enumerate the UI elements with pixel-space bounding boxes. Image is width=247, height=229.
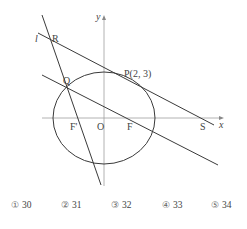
choice-marker: ①	[11, 200, 19, 210]
choice-marker: ②	[61, 200, 69, 210]
line-rf-prime	[42, 15, 101, 185]
x-axis-label: x	[218, 119, 224, 130]
choice-value: 34	[222, 200, 232, 210]
point-f-prime-label: F'	[70, 121, 78, 132]
x-axis	[42, 116, 224, 120]
line-l-label: l	[35, 33, 38, 44]
choice-3[interactable]: ③32	[111, 200, 132, 210]
choice-value: 32	[122, 200, 132, 210]
geometry-diagram: l R Q P(2, 3) F' O F S x y	[0, 0, 247, 190]
point-f-label: F	[127, 121, 133, 132]
point-r-label: R	[52, 33, 59, 44]
choice-1[interactable]: ①30	[11, 200, 32, 210]
y-axis-label: y	[95, 11, 101, 22]
choice-marker: ④	[162, 200, 170, 210]
point-q-label: Q	[63, 75, 71, 86]
choice-value: 33	[173, 200, 183, 210]
point-p-label: P(2, 3)	[124, 68, 151, 80]
choice-marker: ⑤	[211, 200, 219, 210]
choice-marker: ③	[111, 200, 119, 210]
y-axis	[102, 15, 106, 186]
choice-value: 31	[72, 200, 82, 210]
point-s-label: S	[200, 121, 206, 132]
origin-label: O	[97, 121, 104, 132]
answer-choices: ①30 ②31 ③32 ④33 ⑤34	[0, 200, 247, 216]
choice-5[interactable]: ⑤34	[211, 200, 232, 210]
choice-2[interactable]: ②31	[61, 200, 82, 210]
choice-4[interactable]: ④33	[162, 200, 183, 210]
y-axis-arrow-icon	[102, 15, 106, 20]
choice-value: 30	[22, 200, 32, 210]
